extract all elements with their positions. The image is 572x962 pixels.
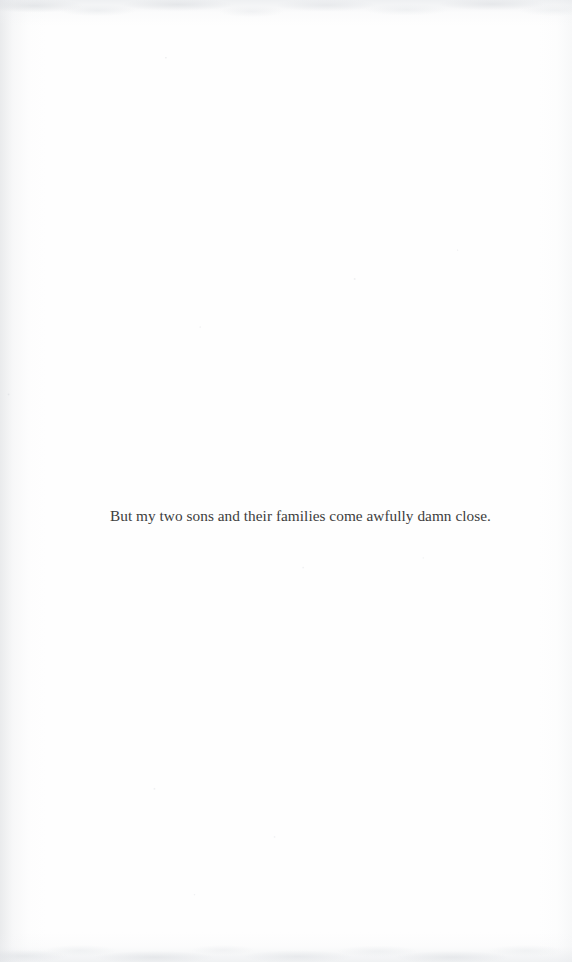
scan-bottom-edge-band bbox=[0, 932, 572, 962]
scan-left-edge-shadow bbox=[0, 0, 46, 962]
scan-dust-speckle bbox=[0, 0, 572, 962]
scanned-page: But my two sons and their families come … bbox=[0, 0, 572, 962]
body-text-line: But my two sons and their families come … bbox=[110, 507, 510, 524]
scan-top-edge-band bbox=[0, 0, 572, 26]
body-text-block: But my two sons and their families come … bbox=[110, 507, 510, 524]
scan-right-edge-shadow bbox=[538, 0, 572, 962]
